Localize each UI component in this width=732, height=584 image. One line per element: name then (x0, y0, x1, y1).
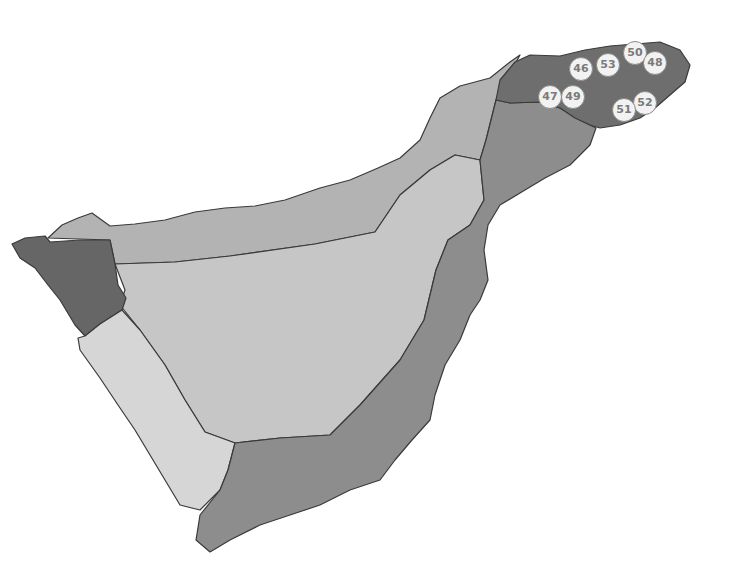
map-marker[interactable]: 52 (633, 91, 657, 115)
map-marker[interactable]: 49 (561, 85, 585, 109)
map-marker[interactable]: 46 (569, 57, 593, 81)
island-map (0, 0, 732, 584)
map-marker[interactable]: 53 (596, 53, 620, 77)
map-marker[interactable]: 51 (612, 98, 636, 122)
map-marker[interactable]: 47 (538, 85, 562, 109)
map-marker[interactable]: 48 (643, 51, 667, 75)
